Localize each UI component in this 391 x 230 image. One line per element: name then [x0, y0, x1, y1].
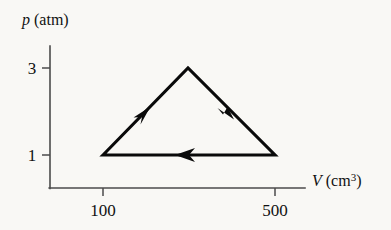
pv-diagram-canvas: 3 1 100 500 p(atm) V(cm3) [0, 0, 391, 230]
x-tick-label-100: 100 [90, 201, 116, 220]
cycle-triangle-path [103, 68, 275, 155]
y-tick-label-3: 3 [28, 59, 37, 78]
x-axis-title-variable: V [312, 172, 324, 189]
y-axis-title-variable: p [21, 11, 30, 29]
axis-title-group: p(atm) V(cm3) [21, 11, 361, 190]
cycle-path-group [103, 68, 275, 155]
tick-mark-group [42, 68, 275, 196]
y-axis-title-unit: (atm) [34, 11, 69, 29]
x-axis-title-unit-close: ) [356, 172, 361, 190]
axis-group [49, 46, 305, 189]
x-axis-title-unit-base: (cm [326, 172, 351, 190]
y-axis-title: p(atm) [21, 11, 69, 29]
x-tick-label-500: 500 [262, 201, 288, 220]
y-tick-label-1: 1 [28, 146, 37, 165]
x-axis-title: V(cm3) [312, 171, 361, 190]
pv-diagram-figure: 3 1 100 500 p(atm) V(cm3) [0, 0, 391, 230]
tick-label-group: 3 1 100 500 [28, 59, 288, 220]
